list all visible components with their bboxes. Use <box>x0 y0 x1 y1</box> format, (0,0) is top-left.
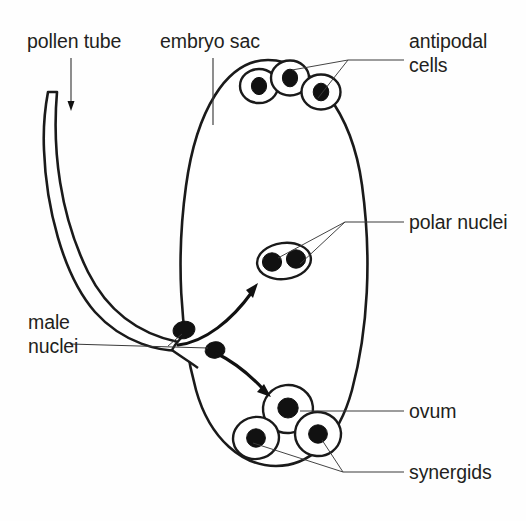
label-male-nuclei-line2: nuclei <box>28 335 78 357</box>
label-antipodal-cells-line2: cells <box>409 54 448 76</box>
leader-arrow-pollen-tube <box>68 101 75 111</box>
antipodal-cell-2-nucleus <box>282 69 297 87</box>
label-polar-nuclei: polar nuclei <box>409 211 508 233</box>
antipodal-cell-1-nucleus <box>251 77 266 94</box>
ovum-nucleus <box>278 398 298 418</box>
polar-nucleus-2 <box>286 250 305 268</box>
label-antipodal-cells-line1: antipodal <box>409 30 487 52</box>
label-male-nuclei-line1: male <box>28 311 70 333</box>
antipodal-cell-3-nucleus <box>313 83 329 101</box>
synergid-right-nucleus <box>309 425 328 443</box>
polar-nucleus-1 <box>262 253 281 271</box>
label-synergids: synergids <box>409 461 492 483</box>
label-embryo-sac: embryo sac <box>160 30 260 52</box>
diagram-canvas: pollen tube embryo sac antipodal cells p… <box>0 0 526 521</box>
label-pollen-tube: pollen tube <box>27 30 121 52</box>
embryo-sac-diagram: pollen tube embryo sac antipodal cells p… <box>0 0 526 521</box>
label-ovum: ovum <box>409 400 456 422</box>
